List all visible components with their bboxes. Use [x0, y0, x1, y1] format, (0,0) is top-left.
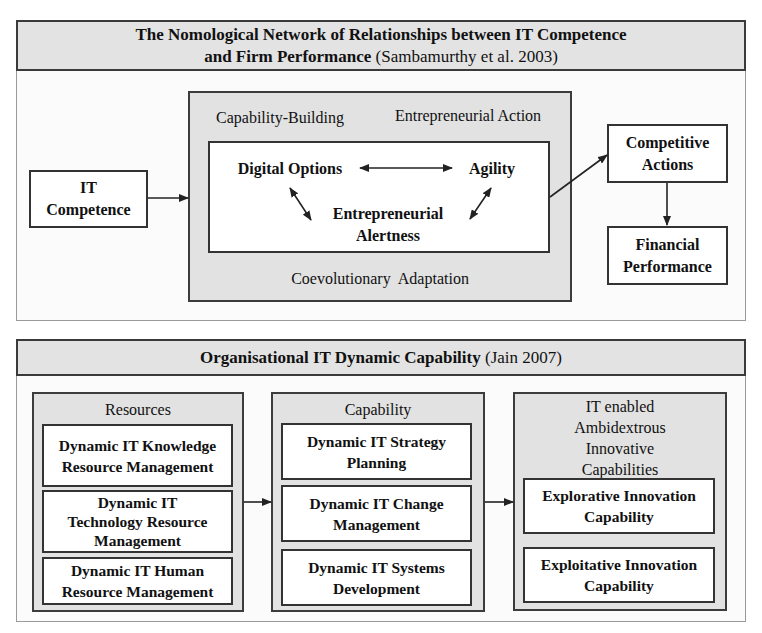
technology-line1: Dynamic IT — [98, 493, 178, 512]
bottom-title: Organisational IT Dynamic Capability — [200, 348, 481, 367]
exploitative-line2: Capability — [584, 575, 654, 596]
exploitative-innovation-box: Exploitative Innovation Capability — [523, 547, 715, 603]
top-header-line2: and Firm Performance (Sambamurthy et al.… — [204, 46, 558, 68]
digital-options-node: Digital Options — [226, 158, 354, 180]
explorative-innovation-box: Explorative Innovation Capability — [523, 478, 715, 534]
alertness-line2: Alertness — [318, 225, 458, 247]
top-header-line1: The Nomological Network of Relationships… — [135, 24, 626, 46]
financial-performance-box: Financial Performance — [607, 226, 728, 285]
human-resource-box: Dynamic IT Human Resource Management — [42, 557, 233, 605]
entrepreneurial-action-label: Entrepreneurial Action — [382, 106, 554, 126]
systems-line2: Development — [333, 578, 420, 599]
strategy-planning-box: Dynamic IT Strategy Planning — [281, 423, 472, 480]
competitive-actions-line2: Actions — [642, 154, 694, 176]
bottom-citation: (Jain 2007) — [485, 348, 562, 367]
innov-title-line1: IT enabled — [513, 396, 727, 417]
human-line1: Dynamic IT Human — [71, 560, 204, 581]
knowledge-line1: Dynamic IT Knowledge — [59, 435, 216, 456]
technology-line3: Management — [94, 531, 181, 550]
innov-title-line3: Innovative — [513, 438, 727, 459]
change-line2: Management — [333, 514, 420, 535]
innov-title-line4: Capabilities — [513, 459, 727, 480]
capability-building-label: Capability-Building — [210, 108, 350, 128]
strategy-line1: Dynamic IT Strategy — [307, 431, 446, 452]
exploitative-line1: Exploitative Innovation — [541, 554, 697, 575]
top-header: The Nomological Network of Relationships… — [16, 20, 746, 71]
knowledge-line2: Resource Management — [62, 456, 214, 477]
entrepreneurial-alertness-node: Entrepreneurial Alertness — [318, 203, 458, 247]
it-competence-line1: IT — [80, 177, 97, 199]
capability-title: Capability — [271, 400, 485, 420]
it-competence-line2: Competence — [46, 199, 130, 221]
financial-performance-line2: Performance — [623, 256, 712, 278]
top-title-line1: The Nomological Network of Relationships… — [135, 25, 626, 44]
human-line2: Resource Management — [62, 581, 214, 602]
competitive-actions-line1: Competitive — [626, 132, 710, 154]
systems-development-box: Dynamic IT Systems Development — [281, 549, 472, 606]
change-line1: Dynamic IT Change — [309, 493, 443, 514]
systems-line1: Dynamic IT Systems — [308, 557, 445, 578]
financial-performance-line1: Financial — [635, 234, 699, 256]
explorative-line2: Capability — [584, 506, 654, 527]
it-competence-box: IT Competence — [29, 170, 148, 228]
bottom-header-line: Organisational IT Dynamic Capability (Ja… — [200, 347, 562, 369]
competitive-actions-box: Competitive Actions — [607, 124, 728, 183]
resources-title: Resources — [32, 400, 244, 420]
top-citation: (Sambamurthy et al. 2003) — [376, 47, 558, 66]
coevolutionary-adaptation-label: Coevolutionary Adaptation — [272, 269, 488, 289]
innovative-capabilities-title: IT enabled Ambidextrous Innovative Capab… — [513, 396, 727, 480]
agility-node: Agility — [462, 158, 522, 180]
innov-title-line2: Ambidextrous — [513, 417, 727, 438]
technology-line2: Technology Resource — [68, 512, 208, 531]
change-management-box: Dynamic IT Change Management — [281, 485, 472, 542]
explorative-line1: Explorative Innovation — [542, 485, 696, 506]
alertness-line1: Entrepreneurial — [318, 203, 458, 225]
top-title-line2: and Firm Performance — [204, 47, 371, 66]
knowledge-resource-box: Dynamic IT Knowledge Resource Management — [42, 424, 233, 487]
strategy-line2: Planning — [347, 452, 406, 473]
technology-resource-box: Dynamic IT Technology Resource Managemen… — [42, 490, 233, 553]
bottom-header: Organisational IT Dynamic Capability (Ja… — [16, 339, 746, 376]
